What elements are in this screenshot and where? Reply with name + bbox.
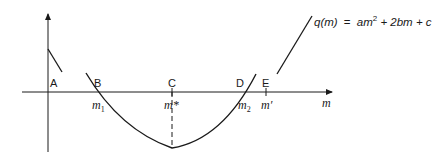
function-formula: q(m) = am2 + 2bm + c [314,14,432,28]
label-b: B [94,77,101,89]
x-axis-label: m [322,96,331,110]
segment-a [48,49,62,72]
segment-e [277,16,312,74]
label-d: D [236,77,244,89]
label-m-star: m* [164,98,179,112]
label-c: C [168,77,176,89]
label-m2: m2 [238,98,251,114]
label-e: E [262,77,269,89]
label-a: A [50,77,58,89]
label-m-prime: m′ [261,98,273,112]
quadratic-diagram: A B C D E m1 m* m2 m′ m q(m) = am2 + 2bm… [0,0,447,160]
label-m1: m1 [92,98,105,114]
